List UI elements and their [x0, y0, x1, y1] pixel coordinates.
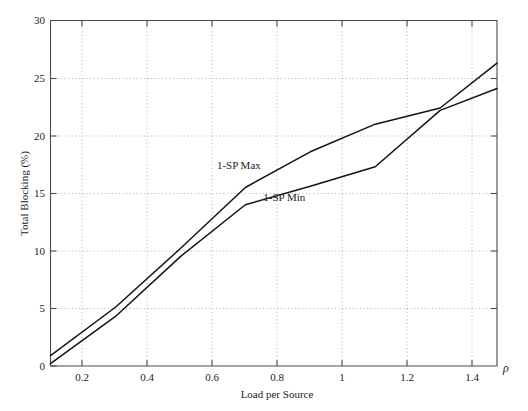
y-tick-label: 0: [40, 360, 46, 372]
x-tick-labels: 0.2 0.4 0.6 0.8 1 1.2 1.4: [75, 371, 479, 383]
series-label-1-sp-min: 1-SP Min: [263, 191, 306, 203]
x-axis-title: Load per Source: [241, 388, 314, 400]
x-tick-label: 0.4: [140, 371, 154, 383]
y-tick-label: 5: [40, 302, 46, 314]
y-tick-label: 15: [34, 187, 46, 199]
series-label-1-sp-max: 1-SP Max: [217, 159, 261, 171]
x-tick-label: 0.2: [75, 371, 89, 383]
x-axis-symbol-rho: ρ: [502, 361, 509, 375]
y-tick-labels: 0 5 10 15 20 25 30: [34, 14, 46, 372]
series-curve-1-sp-min: [51, 88, 498, 363]
series-curve-1-sp-max: [51, 63, 498, 356]
x-tick-label: 1.2: [400, 371, 414, 383]
y-tick-label: 10: [34, 245, 46, 257]
chart-figure: 0 5 10 15 20 25 30 0.2 0.4 0.6 0.8 1 1.2…: [0, 0, 528, 411]
x-tick-label: 0.8: [270, 371, 284, 383]
x-tick-label: 0.6: [205, 371, 219, 383]
x-tick-label: 1.4: [465, 371, 479, 383]
x-tick-label: 1: [339, 371, 345, 383]
y-tick-label: 25: [34, 72, 46, 84]
y-tick-label: 20: [34, 130, 46, 142]
data-series-group: [51, 63, 498, 364]
line-chart-svg: 0 5 10 15 20 25 30 0.2 0.4 0.6 0.8 1 1.2…: [0, 0, 528, 411]
y-tick-label: 30: [34, 14, 46, 26]
series-annotations: 1-SP Max 1-SP Min: [217, 159, 306, 203]
y-axis-title: Total Blocking (%): [18, 151, 31, 236]
